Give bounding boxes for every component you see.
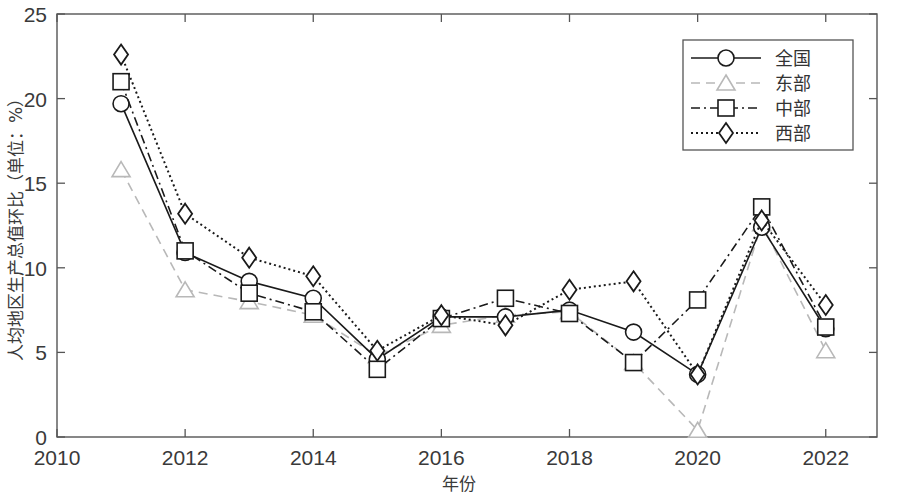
series-line — [121, 170, 826, 431]
line-chart-canvas: 20102012201420162018202020220510152025年份… — [0, 0, 907, 497]
data-point-marker — [177, 243, 193, 259]
data-point-marker — [817, 343, 835, 358]
data-point-marker — [562, 305, 578, 321]
chart-figure: 20102012201420162018202020220510152025年份… — [0, 0, 907, 497]
data-point-marker — [306, 266, 320, 286]
y-tick-label: 15 — [24, 172, 47, 195]
data-point-marker — [305, 304, 321, 320]
legend-box — [683, 40, 853, 150]
y-axis-title: 人均地区生产总值环比（单位：%） — [6, 90, 26, 361]
data-point-marker — [497, 290, 513, 306]
y-tick-label: 25 — [24, 3, 47, 26]
y-tick-label: 10 — [24, 257, 47, 280]
legend-label-东部: 东部 — [775, 73, 811, 94]
data-point-marker — [818, 319, 834, 335]
data-point-marker — [718, 100, 734, 116]
x-tick-label: 2018 — [546, 446, 593, 469]
data-point-marker — [626, 324, 642, 340]
x-tick-label: 2016 — [418, 446, 465, 469]
data-point-marker — [718, 50, 734, 66]
x-tick-label: 2020 — [674, 446, 721, 469]
data-point-marker — [242, 248, 256, 268]
x-tick-label: 2022 — [802, 446, 849, 469]
data-point-marker — [114, 45, 128, 65]
data-point-marker — [369, 361, 385, 377]
series-东部 — [112, 162, 835, 438]
x-tick-label: 2014 — [290, 446, 337, 469]
data-point-marker — [241, 285, 257, 301]
x-tick-label: 2010 — [34, 446, 81, 469]
legend-label-西部: 西部 — [775, 123, 811, 144]
y-tick-label: 5 — [35, 341, 47, 364]
data-point-marker — [112, 162, 130, 177]
x-tick-label: 2012 — [162, 446, 209, 469]
data-point-marker — [690, 292, 706, 308]
data-point-marker — [626, 355, 642, 371]
data-point-marker — [563, 280, 577, 300]
data-point-marker — [178, 204, 192, 224]
data-point-marker — [113, 96, 129, 112]
data-point-marker — [627, 271, 641, 291]
data-point-marker — [176, 282, 194, 297]
data-point-marker — [113, 74, 129, 90]
y-tick-label: 20 — [24, 88, 47, 111]
legend-label-全国: 全国 — [775, 48, 811, 69]
legend-label-中部: 中部 — [775, 98, 811, 119]
x-axis-title: 年份 — [442, 474, 476, 494]
data-point-marker — [819, 295, 833, 315]
y-tick-label: 0 — [35, 426, 47, 449]
chart-legend: 全国东部中部西部 — [683, 40, 853, 150]
